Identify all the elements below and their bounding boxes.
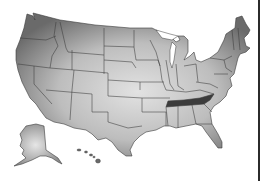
us-map-svg (0, 0, 268, 181)
contiguous-us (16, 13, 250, 156)
right-edge-bar (258, 0, 260, 181)
us-map (0, 0, 268, 181)
state-hawaii (77, 149, 100, 163)
state-alaska (14, 124, 62, 166)
